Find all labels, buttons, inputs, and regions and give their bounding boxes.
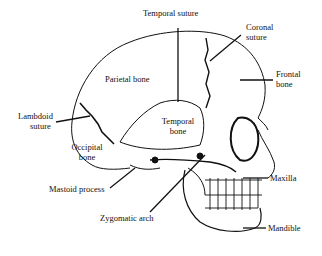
label-occipital-bone-line2: bone bbox=[68, 153, 106, 163]
cranium-outline bbox=[72, 31, 265, 122]
label-parietal-bone: Parietal bone bbox=[105, 75, 150, 85]
orbit bbox=[231, 118, 259, 161]
coronal-suture-line bbox=[205, 38, 210, 108]
zygomatic-arch-bone bbox=[150, 159, 236, 172]
teeth bbox=[205, 178, 262, 210]
label-frontal-bone-line2: bone bbox=[276, 80, 293, 90]
mandible-bone bbox=[183, 170, 261, 231]
label-mastoid-process: Mastoid process bbox=[49, 185, 104, 195]
label-lambdoid-suture-line2: suture bbox=[30, 122, 51, 132]
label-temporal-suture: Temporal suture bbox=[143, 9, 198, 19]
lambdoid-suture-line bbox=[80, 103, 114, 144]
label-coronal-suture-line2: suture bbox=[246, 33, 267, 43]
label-temporal-bone-line2: bone bbox=[160, 127, 196, 137]
label-zygomatic-arch: Zygomatic arch bbox=[100, 214, 154, 224]
label-mandible: Mandible bbox=[268, 224, 301, 234]
label-maxilla: Maxilla bbox=[270, 174, 296, 184]
